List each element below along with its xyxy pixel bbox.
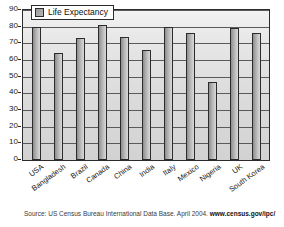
bar-slot: [91, 10, 113, 160]
bar-slot: [69, 10, 91, 160]
y-tick-label: 90: [9, 5, 18, 13]
bar-nigeria[interactable]: [208, 82, 217, 160]
y-tick-mark: [18, 9, 21, 10]
bar-slot: [157, 10, 179, 160]
bar-mexico[interactable]: [186, 33, 195, 160]
y-tick-mark: [18, 126, 21, 127]
bar-slot: [113, 10, 135, 160]
bar-slot: [201, 10, 223, 160]
bar-china[interactable]: [120, 37, 129, 160]
y-tick-mark: [18, 109, 21, 110]
plot-area: [22, 9, 270, 161]
y-tick-mark: [18, 159, 21, 160]
bar-brazil[interactable]: [76, 38, 85, 160]
bar-india[interactable]: [142, 50, 151, 160]
y-tick-mark: [18, 26, 21, 27]
y-tick-label: 60: [9, 55, 18, 63]
y-tick-mark: [18, 59, 21, 60]
bar-slot: [25, 10, 47, 160]
chart-legend: Life Expectancy: [31, 5, 114, 20]
y-axis: 9080706050403020100: [0, 2, 21, 162]
bar-south-korea[interactable]: [252, 33, 261, 160]
x-axis-labels: USABangladeshBrazilCanadaChinaIndiaItaly…: [22, 161, 270, 203]
bar-slot: [245, 10, 267, 160]
bar-italy[interactable]: [164, 27, 173, 160]
y-tick-label: 50: [9, 72, 18, 80]
y-tick-label: 70: [9, 38, 18, 46]
legend-label: Life Expectancy: [48, 8, 108, 17]
bar-uk[interactable]: [230, 28, 239, 160]
bar-slot: [135, 10, 157, 160]
life-expectancy-bar-chart: 9080706050403020100 Life Expectancy USAB…: [0, 0, 284, 227]
y-tick-mark: [18, 92, 21, 93]
y-tick-mark: [18, 142, 21, 143]
y-tick-mark: [18, 76, 21, 77]
bar-canada[interactable]: [98, 25, 107, 160]
y-tick-label: 20: [9, 122, 18, 130]
caption-source-text: Source: US Census Bureau International D…: [24, 210, 208, 217]
bar-slot: [179, 10, 201, 160]
bar-bangladesh[interactable]: [54, 53, 63, 160]
bars-layer: [23, 10, 269, 160]
legend-swatch-icon: [35, 8, 44, 17]
y-tick-label: 80: [9, 22, 18, 30]
y-tick-label: 10: [9, 138, 18, 146]
bar-slot: [223, 10, 245, 160]
y-tick-mark: [18, 42, 21, 43]
y-tick-label: 40: [9, 88, 18, 96]
bar-usa[interactable]: [32, 27, 41, 160]
y-tick-label: 30: [9, 105, 18, 113]
source-caption: Source: US Census Bureau International D…: [24, 210, 284, 218]
caption-url: www.census.gov/ipc/: [210, 210, 276, 217]
bar-slot: [47, 10, 69, 160]
